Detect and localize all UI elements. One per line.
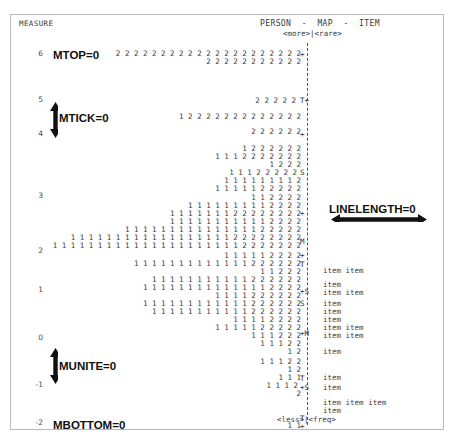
linelength-arrow-icon: [331, 213, 427, 222]
person-row: 2: [296, 389, 301, 398]
axis-marker-1: T+: [300, 96, 309, 105]
item-row: item item: [323, 266, 364, 275]
mtick-arrow-icon: [49, 102, 58, 138]
y-tick-1: 5: [29, 95, 43, 104]
person-row: 2 2 2 2 2 2: [251, 127, 301, 136]
axis-marker-8: +S: [300, 287, 309, 296]
map-frame: MEASURE PERSON - MAP - ITEM <more>|<rare…: [10, 14, 444, 430]
person-row: 1 2: [287, 347, 301, 356]
item-row: item: [323, 406, 341, 415]
person-row: 2 2 2 2 2 2 2 2 2 2 2: [206, 57, 301, 66]
annotation-munite: MUNITE=0: [59, 360, 116, 372]
item-row: item: [323, 347, 341, 356]
person-row: 1 1 1 1 1 1 1 1 1 1 1 1 1 1 1 1 1 1 1 1 …: [53, 241, 301, 250]
y-tick-3: 3: [29, 191, 43, 200]
item-row: item: [323, 383, 341, 392]
y-tick-0: 6: [29, 49, 43, 58]
measure-axis-label: MEASURE: [19, 19, 53, 28]
person-row: 2 2 2 2 2: [255, 96, 296, 105]
top-legend: <more>|<rare>: [283, 29, 342, 38]
y-tick-4: 2: [29, 246, 43, 255]
person-row: 1 2 2 2 2 2 2 2 2 2 2 2 2 2: [179, 112, 301, 121]
person-row: 1 1 1 1 1 2 2 2 2 2: [215, 184, 301, 193]
page-title: PERSON - MAP - ITEM: [260, 19, 380, 28]
y-tick-7: -1: [29, 380, 43, 389]
axis-marker-12: +S: [300, 383, 309, 392]
annotation-mtick: MTICK=0: [59, 112, 109, 124]
y-tick-5: 1: [29, 285, 43, 294]
item-row: item item: [323, 331, 364, 340]
annotation-mtop: MTOP=0: [53, 49, 99, 61]
y-tick-8: -2: [29, 418, 43, 427]
item-row: item: [323, 373, 341, 382]
axis-marker-10: +M: [300, 329, 309, 338]
person-row: 1 1 1 2: [266, 381, 298, 390]
item-row: item item: [323, 288, 364, 297]
annotation-mbottom: MBOTTOM=0: [53, 419, 125, 431]
y-tick-6: 0: [29, 333, 43, 342]
munite-arrow-icon: [49, 348, 58, 384]
person-row: 1 1: [287, 421, 301, 430]
y-tick-2: 4: [29, 129, 43, 138]
